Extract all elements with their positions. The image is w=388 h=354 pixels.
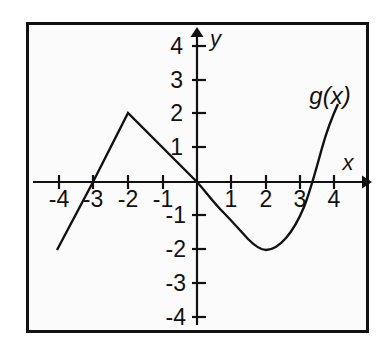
x-tick-label: 1: [225, 186, 238, 212]
y-tick-label: 2: [170, 100, 183, 126]
x-axis-label: x: [342, 150, 355, 175]
x-tick-label: 2: [260, 186, 273, 212]
y-tick-label: 3: [170, 67, 183, 93]
y-tick-label: -1: [166, 202, 186, 228]
x-tick-label: -3: [83, 186, 103, 212]
y-tick-label: -2: [166, 236, 186, 262]
x-tick-label: 4: [328, 186, 341, 212]
y-tick-label: 4: [170, 33, 183, 59]
y-axis-label: y: [208, 26, 223, 51]
function-label: g(x): [309, 82, 350, 109]
x-tick-label: -2: [118, 186, 138, 212]
x-tick-label: -4: [49, 186, 70, 212]
graph-svg: -4 -3 -2 -1 1 2 3 4 4 3 2 1 -1 -2 -3 -4 …: [0, 0, 388, 354]
y-tick-label: -3: [166, 270, 186, 296]
y-tick-label: -4: [166, 304, 187, 330]
graph-figure: -4 -3 -2 -1 1 2 3 4 4 3 2 1 -1 -2 -3 -4 …: [0, 0, 388, 354]
